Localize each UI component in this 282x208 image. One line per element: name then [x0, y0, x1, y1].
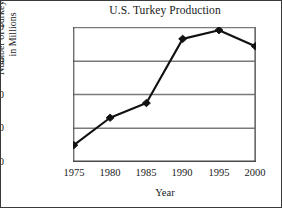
y-tick-label: 150	[0, 122, 4, 133]
plot-svg	[73, 27, 256, 162]
x-tick-label: 1990	[162, 167, 202, 178]
y-tick-label: 300	[0, 21, 4, 32]
y-tick-label: 200	[0, 89, 4, 100]
data-point-marker	[179, 35, 187, 42]
plot-area	[73, 27, 256, 162]
x-tick-label: 2000	[235, 167, 275, 178]
x-tick-label: 1995	[199, 167, 239, 178]
chart-figure: U.S. Turkey Production Number of Turkeys…	[0, 0, 282, 208]
data-point-marker	[142, 99, 150, 106]
x-tick-label: 1980	[90, 167, 130, 178]
grid-lines	[73, 28, 256, 129]
x-tick-label: 1975	[54, 167, 94, 178]
y-tick-label: 250	[0, 55, 4, 66]
y-tick-label: 100	[0, 156, 4, 167]
x-tick-label: 1985	[126, 167, 166, 178]
x-axis-tick-labels: 1975 1980 1985 1990 1995 2000	[1, 167, 282, 183]
x-axis-title: Year	[73, 187, 257, 198]
data-markers	[73, 27, 256, 149]
